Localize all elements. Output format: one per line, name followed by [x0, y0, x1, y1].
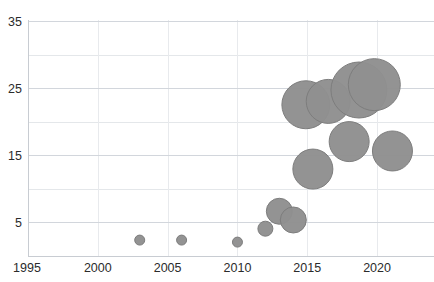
- bubble-point: [232, 237, 242, 247]
- x-tick-label: 2005: [154, 261, 182, 275]
- x-tick-label: 2020: [363, 261, 391, 275]
- bubble-series: [135, 59, 413, 247]
- bubble-point: [135, 235, 145, 245]
- bubble-point: [348, 59, 400, 111]
- bubble-point: [293, 149, 333, 189]
- x-tick-label: 2010: [224, 261, 252, 275]
- bubble-point: [280, 207, 306, 233]
- y-tick-label: 5: [15, 216, 22, 230]
- bubble-chart: 3525155 199520002005201020152020: [0, 0, 434, 282]
- y-tick-label: 35: [8, 15, 22, 29]
- x-tick-label: 1995: [13, 261, 41, 275]
- y-tick-label: 15: [8, 149, 22, 163]
- bubble-point: [177, 235, 187, 245]
- x-tick-label: 2015: [293, 261, 321, 275]
- y-axis-tick-labels: 3525155: [8, 15, 22, 230]
- x-axis-tick-labels: 199520002005201020152020: [13, 261, 391, 275]
- bubble-point: [372, 131, 412, 171]
- chart-canvas: 3525155 199520002005201020152020: [0, 0, 434, 282]
- y-tick-label: 25: [8, 82, 22, 96]
- bubble-point: [258, 221, 273, 236]
- x-tick-label: 2000: [84, 261, 112, 275]
- bubble-point: [329, 122, 369, 162]
